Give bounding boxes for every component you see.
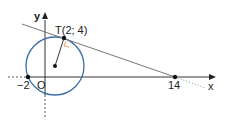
point-t-label: T(2; 4) <box>55 25 87 36</box>
center-point <box>53 64 57 68</box>
y-axis-arrow-icon <box>42 12 48 19</box>
right-angle-marker <box>64 41 69 47</box>
x-axis-label: x <box>208 81 214 92</box>
point-t <box>62 36 66 40</box>
minus-two-label: −2 <box>17 80 30 91</box>
radius-segment <box>55 38 64 66</box>
fourteen-label: 14 <box>168 80 180 91</box>
y-axis-label: y <box>34 11 40 22</box>
origin-label: O <box>37 80 46 91</box>
